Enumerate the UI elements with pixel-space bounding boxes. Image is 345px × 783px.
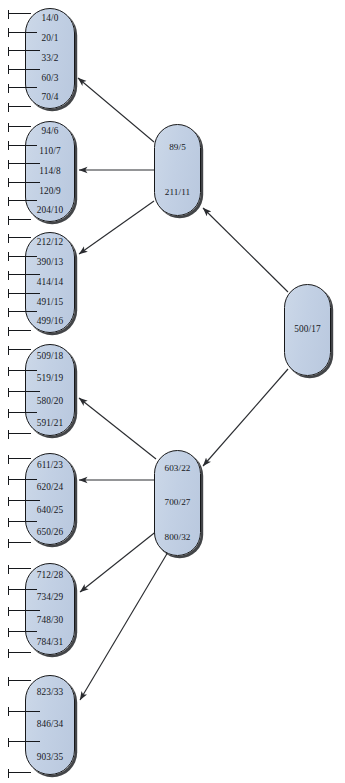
node-entry: 509/18 xyxy=(37,352,63,361)
tree-node-internal-upper[interactable]: 89/5211/11 xyxy=(154,124,201,216)
node-entries-leaf-1: 14/020/133/260/370/4 xyxy=(26,9,74,108)
node-entry: 211/11 xyxy=(165,188,190,197)
node-entry: 748/30 xyxy=(37,616,63,625)
node-entry: 110/7 xyxy=(39,147,60,156)
node-entries-leaf-6: 712/28734/29748/30784/31 xyxy=(26,564,74,654)
node-entries-internal-upper: 89/5211/11 xyxy=(155,125,200,215)
node-entry: 620/24 xyxy=(37,483,63,492)
node-entry: 414/14 xyxy=(37,278,63,287)
node-entry: 120/9 xyxy=(39,187,61,196)
node-entry: 94/6 xyxy=(42,127,59,136)
node-entry: 70/4 xyxy=(42,93,59,102)
node-entry: 640/25 xyxy=(37,506,63,515)
tree-diagram-canvas: 500/1789/5211/11603/22700/27800/3214/020… xyxy=(0,0,345,783)
node-entry: 499/16 xyxy=(37,317,63,326)
node-entry: 500/17 xyxy=(294,325,320,334)
node-entry: 20/1 xyxy=(42,34,59,43)
node-entry: 114/8 xyxy=(39,167,60,176)
tree-node-leaf-4[interactable]: 509/18519/19580/20591/21 xyxy=(25,344,75,436)
tree-node-root[interactable]: 500/17 xyxy=(284,284,331,376)
node-entry: 800/32 xyxy=(164,533,190,542)
tree-node-leaf-5[interactable]: 611/23620/24640/25650/26 xyxy=(25,453,75,545)
node-entry: 712/28 xyxy=(37,571,63,580)
node-entry: 519/19 xyxy=(37,374,63,383)
node-entry: 650/26 xyxy=(37,528,63,537)
tree-node-leaf-6[interactable]: 712/28734/29748/30784/31 xyxy=(25,563,75,655)
node-entry: 390/13 xyxy=(37,258,63,267)
node-entry: 580/20 xyxy=(37,397,63,406)
node-entries-leaf-5: 611/23620/24640/25650/26 xyxy=(26,454,74,544)
node-entries-leaf-2: 94/6110/7114/8120/9204/10 xyxy=(26,122,74,221)
node-entry: 14/0 xyxy=(42,14,59,23)
node-entry: 846/34 xyxy=(37,720,63,729)
tree-node-leaf-3[interactable]: 212/12390/13414/14491/15499/16 xyxy=(25,232,75,333)
tree-node-internal-lower[interactable]: 603/22700/27800/32 xyxy=(154,450,201,556)
tree-node-leaf-7[interactable]: 823/33846/34903/35 xyxy=(25,675,75,775)
tree-node-leaf-1[interactable]: 14/020/133/260/370/4 xyxy=(25,8,75,109)
node-entries-root: 500/17 xyxy=(285,285,330,375)
node-entries-internal-lower: 603/22700/27800/32 xyxy=(155,451,200,555)
node-entries-leaf-3: 212/12390/13414/14491/15499/16 xyxy=(26,233,74,332)
node-entry: 700/27 xyxy=(164,498,190,507)
node-layer: 500/1789/5211/11603/22700/27800/3214/020… xyxy=(0,0,345,783)
node-entry: 204/10 xyxy=(37,206,63,215)
node-entry: 491/15 xyxy=(37,298,63,307)
tree-node-leaf-2[interactable]: 94/6110/7114/8120/9204/10 xyxy=(25,121,75,222)
node-entry: 603/22 xyxy=(164,464,190,473)
node-entry: 89/5 xyxy=(169,143,186,152)
node-entry: 784/31 xyxy=(37,638,63,647)
node-entry: 734/29 xyxy=(37,593,63,602)
node-entry: 591/21 xyxy=(37,419,63,428)
node-entries-leaf-7: 823/33846/34903/35 xyxy=(26,676,74,774)
node-entry: 823/33 xyxy=(37,688,63,697)
node-entry: 212/12 xyxy=(37,238,63,247)
node-entry: 60/3 xyxy=(42,74,59,83)
node-entry: 903/35 xyxy=(37,753,63,762)
node-entry: 611/23 xyxy=(37,461,63,470)
node-entry: 33/2 xyxy=(42,54,59,63)
node-entries-leaf-4: 509/18519/19580/20591/21 xyxy=(26,345,74,435)
